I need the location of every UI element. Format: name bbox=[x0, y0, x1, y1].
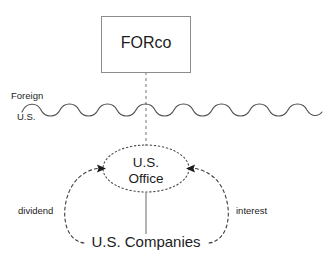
us-office-label-line2: Office bbox=[0, 172, 292, 186]
diagram-canvas: FORco Foreign U.S. U.S. Office dividend … bbox=[0, 0, 330, 259]
us-office-label-line1: U.S. bbox=[0, 156, 292, 170]
border-wavy-line bbox=[22, 104, 322, 116]
us-side-label: U.S. bbox=[17, 112, 35, 122]
foreign-side-label: Foreign bbox=[11, 91, 43, 101]
us-companies-node-label: U.S. Companies bbox=[0, 234, 292, 249]
forco-node-label: FORco bbox=[0, 35, 292, 51]
interest-edge-label: interest bbox=[236, 206, 267, 216]
dividend-edge-label: dividend bbox=[18, 206, 53, 216]
